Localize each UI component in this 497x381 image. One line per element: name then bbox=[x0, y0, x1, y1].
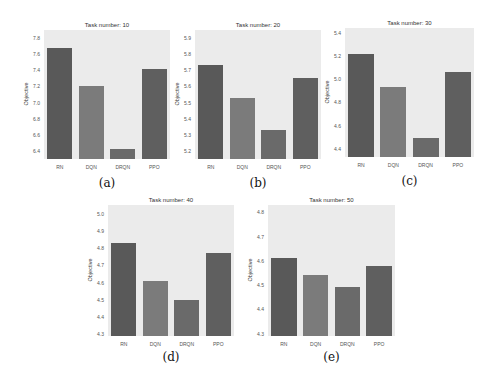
x-tick-label: DQN bbox=[140, 341, 172, 347]
bar-dqn bbox=[79, 86, 104, 159]
y-tick-label: 5.2 bbox=[173, 148, 191, 154]
subfigure-caption: (e) bbox=[317, 350, 347, 364]
x-tick-label: PPO bbox=[442, 162, 474, 168]
bar-dqn bbox=[230, 98, 255, 159]
y-tick-label: 5.0 bbox=[86, 211, 104, 217]
chart-title: Task number: 20 bbox=[195, 22, 321, 28]
subfigure-caption: (c) bbox=[395, 174, 425, 188]
x-tick-label: PPO bbox=[139, 164, 171, 170]
y-tick-label: 5.4 bbox=[323, 30, 341, 36]
y-tick-label: 4.3 bbox=[86, 331, 104, 337]
y-tick-label: 6.8 bbox=[22, 116, 40, 122]
y-tick-label: 4.7 bbox=[246, 234, 264, 240]
y-tick-label: 4.4 bbox=[323, 146, 341, 152]
bar-rn bbox=[348, 54, 374, 157]
y-axis-label: Objective bbox=[174, 74, 180, 114]
bar-ppo bbox=[445, 72, 471, 157]
y-tick-label: 4.3 bbox=[246, 331, 264, 337]
y-tick-label: 5.3 bbox=[173, 132, 191, 138]
y-tick-label: 5.9 bbox=[173, 35, 191, 41]
chart-title: Task number: 30 bbox=[345, 20, 474, 26]
y-tick-label: 7.8 bbox=[22, 35, 40, 41]
x-tick-label: DQN bbox=[377, 162, 409, 168]
x-tick-label: RN bbox=[44, 164, 76, 170]
bar-rn bbox=[111, 243, 136, 336]
y-axis-label: Objective bbox=[23, 74, 29, 114]
bar-rn bbox=[271, 258, 296, 336]
bar-drqn bbox=[335, 287, 360, 336]
x-tick-label: PPO bbox=[290, 164, 322, 170]
y-axis-label: Objective bbox=[324, 72, 330, 112]
chart-title: Task number: 10 bbox=[44, 22, 170, 28]
bar-drqn bbox=[110, 149, 135, 159]
bar-rn bbox=[198, 65, 223, 159]
y-tick-label: 4.6 bbox=[323, 123, 341, 129]
y-tick-label: 5.4 bbox=[173, 116, 191, 122]
y-axis-label: Objective bbox=[87, 250, 93, 290]
x-tick-label: DQN bbox=[76, 164, 108, 170]
bar-ppo bbox=[293, 78, 318, 159]
x-tick-label: RN bbox=[108, 341, 140, 347]
x-tick-label: DQN bbox=[300, 341, 332, 347]
bar-ppo bbox=[142, 69, 167, 159]
y-tick-label: 4.4 bbox=[246, 306, 264, 312]
y-tick-label: 5.7 bbox=[173, 67, 191, 73]
y-axis-label: Objective bbox=[247, 250, 253, 290]
y-tick-label: 6.6 bbox=[22, 132, 40, 138]
x-tick-label: PPO bbox=[203, 341, 235, 347]
subfigure-caption: (d) bbox=[156, 350, 186, 364]
x-tick-label: DRQN bbox=[171, 341, 203, 347]
y-tick-label: 7.4 bbox=[22, 67, 40, 73]
subfigure-caption: (b) bbox=[243, 176, 273, 190]
x-tick-label: DRQN bbox=[332, 341, 364, 347]
chart-title: Task number: 40 bbox=[108, 197, 234, 203]
bar-ppo bbox=[366, 266, 391, 336]
y-tick-label: 4.8 bbox=[246, 209, 264, 215]
bar-rn bbox=[47, 48, 72, 159]
bar-dqn bbox=[143, 281, 168, 336]
x-tick-label: DRQN bbox=[410, 162, 442, 168]
x-tick-label: PPO bbox=[363, 341, 395, 347]
bar-drqn bbox=[413, 138, 439, 157]
y-tick-label: 4.9 bbox=[86, 228, 104, 234]
bar-ppo bbox=[206, 253, 231, 336]
bar-dqn bbox=[380, 87, 406, 157]
bar-dqn bbox=[303, 275, 328, 336]
bar-drqn bbox=[261, 130, 286, 159]
chart-title: Task number: 50 bbox=[268, 197, 395, 203]
y-tick-label: 5.2 bbox=[323, 53, 341, 59]
x-tick-label: RN bbox=[268, 341, 300, 347]
x-tick-label: RN bbox=[345, 162, 377, 168]
y-tick-label: 4.5 bbox=[86, 297, 104, 303]
x-tick-label: DRQN bbox=[258, 164, 290, 170]
x-tick-label: DQN bbox=[227, 164, 259, 170]
y-tick-label: 6.4 bbox=[22, 148, 40, 154]
x-tick-label: RN bbox=[195, 164, 227, 170]
subfigure-caption: (a) bbox=[92, 176, 122, 190]
y-tick-label: 7.6 bbox=[22, 51, 40, 57]
x-tick-label: DRQN bbox=[107, 164, 139, 170]
y-tick-label: 5.8 bbox=[173, 51, 191, 57]
bar-drqn bbox=[174, 300, 199, 336]
y-tick-label: 4.4 bbox=[86, 314, 104, 320]
